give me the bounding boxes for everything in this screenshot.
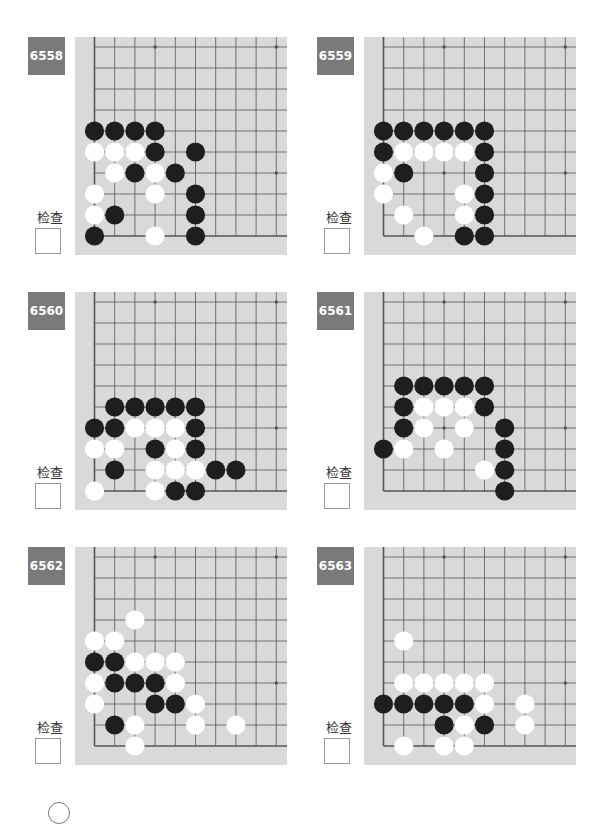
white-stone: [85, 694, 104, 713]
black-stone: [105, 715, 124, 734]
black-stone: [475, 397, 494, 416]
black-stone: [186, 226, 205, 245]
black-stone: [374, 121, 393, 140]
white-stone: [475, 694, 494, 713]
white-stone: [146, 481, 165, 500]
black-stone: [125, 397, 144, 416]
black-stone: [125, 121, 144, 140]
black-stone: [105, 205, 124, 224]
problem-panel: 6559 检查: [317, 37, 597, 262]
problem-number-badge: 6563: [317, 547, 354, 585]
black-stone: [166, 397, 185, 416]
white-stone: [125, 715, 144, 734]
white-stone: [125, 652, 144, 671]
white-stone: [394, 673, 413, 692]
white-stone: [374, 163, 393, 182]
white-stone: [394, 631, 413, 650]
black-stone: [414, 376, 433, 395]
black-stone: [495, 481, 514, 500]
white-stone: [85, 481, 104, 500]
white-stone: [125, 610, 144, 629]
check-label: 检查: [35, 462, 65, 481]
problem-number-badge: 6559: [317, 37, 354, 75]
white-stone: [85, 142, 104, 161]
black-stone: [186, 184, 205, 203]
white-stone: [515, 694, 534, 713]
black-stone: [455, 226, 474, 245]
black-stone: [475, 184, 494, 203]
black-stone: [146, 142, 165, 161]
black-stone: [146, 439, 165, 458]
check-checkbox[interactable]: [324, 483, 350, 509]
black-stone: [105, 652, 124, 671]
go-board: [75, 37, 287, 255]
white-stone: [414, 397, 433, 416]
white-stone: [394, 439, 413, 458]
black-stone: [85, 226, 104, 245]
white-stone: [85, 439, 104, 458]
black-stone: [105, 460, 124, 479]
black-stone: [455, 121, 474, 140]
black-stone: [374, 439, 393, 458]
white-stone: [414, 418, 433, 437]
board-grid: [75, 37, 287, 255]
black-stone: [475, 376, 494, 395]
white-stone: [414, 673, 433, 692]
black-stone: [414, 121, 433, 140]
black-stone: [146, 694, 165, 713]
check-label: 检查: [324, 717, 354, 736]
black-stone: [414, 694, 433, 713]
white-stone: [85, 184, 104, 203]
problem-number-badge: 6561: [317, 292, 354, 330]
black-stone: [394, 418, 413, 437]
black-stone: [146, 121, 165, 140]
white-stone: [146, 184, 165, 203]
black-stone: [374, 142, 393, 161]
check-checkbox[interactable]: [324, 228, 350, 254]
black-stone: [186, 397, 205, 416]
check-label: 检查: [324, 207, 354, 226]
white-stone: [146, 163, 165, 182]
white-stone: [435, 397, 454, 416]
white-stone: [85, 631, 104, 650]
white-stone: [105, 631, 124, 650]
problem-panel: 6563 检查: [317, 547, 597, 772]
black-stone: [495, 460, 514, 479]
page-marker-circle-icon: [48, 802, 70, 824]
white-stone: [475, 460, 494, 479]
white-stone: [146, 226, 165, 245]
white-stone: [146, 652, 165, 671]
check-label: 检查: [35, 207, 65, 226]
check-checkbox[interactable]: [35, 228, 61, 254]
white-stone: [435, 673, 454, 692]
white-stone: [166, 418, 185, 437]
problem-number-badge: 6558: [28, 37, 65, 75]
problem-panel: 6562 检查: [28, 547, 308, 772]
check-checkbox[interactable]: [35, 738, 61, 764]
white-stone: [435, 142, 454, 161]
problem-number-badge: 6560: [28, 292, 65, 330]
white-stone: [394, 205, 413, 224]
black-stone: [435, 694, 454, 713]
check-checkbox[interactable]: [324, 738, 350, 764]
white-stone: [455, 142, 474, 161]
problem-panel: 6560 检查: [28, 292, 308, 517]
go-board: [75, 547, 287, 765]
white-stone: [435, 736, 454, 755]
black-stone: [475, 715, 494, 734]
black-stone: [166, 481, 185, 500]
go-board: [75, 292, 287, 510]
white-stone: [85, 205, 104, 224]
black-stone: [105, 673, 124, 692]
black-stone: [226, 460, 245, 479]
white-stone: [455, 205, 474, 224]
black-stone: [475, 226, 494, 245]
check-checkbox[interactable]: [35, 483, 61, 509]
white-stone: [166, 673, 185, 692]
board-grid: [75, 547, 287, 765]
white-stone: [226, 715, 245, 734]
black-stone: [475, 121, 494, 140]
check-label: 检查: [324, 462, 354, 481]
black-stone: [85, 121, 104, 140]
white-stone: [125, 142, 144, 161]
